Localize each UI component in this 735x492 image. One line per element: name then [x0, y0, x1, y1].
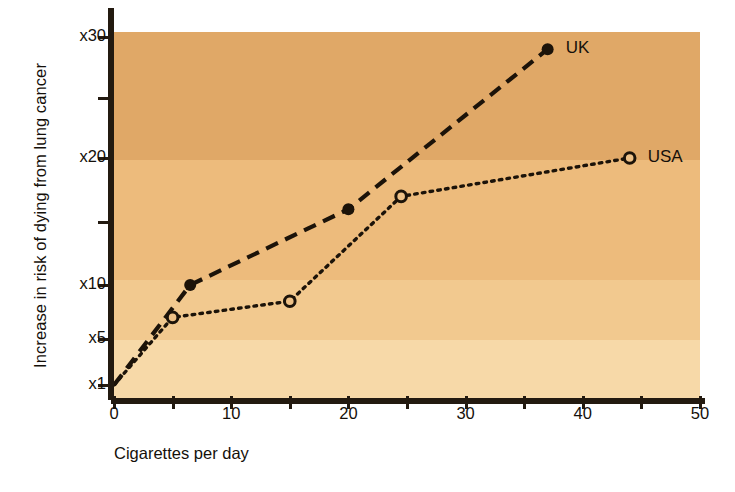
x-tick-label: 0	[84, 404, 144, 423]
data-point-uk	[184, 279, 196, 291]
data-point-usa	[167, 312, 178, 323]
data-point-uk	[542, 43, 554, 55]
x-tick-label: 50	[670, 404, 730, 423]
x-tickmark	[289, 396, 292, 409]
series-label-uk: UK	[566, 38, 590, 58]
x-tick-label: 20	[318, 404, 378, 423]
x-tickmark	[172, 396, 175, 409]
x-tickmark	[523, 396, 526, 409]
x-tickmark	[406, 396, 409, 409]
x-tick-label: 30	[436, 404, 496, 423]
data-point-usa	[624, 153, 635, 164]
data-point-uk	[342, 203, 354, 215]
x-tick-label: 10	[201, 404, 261, 423]
y-axis-line	[108, 8, 114, 400]
x-tick-label: 40	[553, 404, 613, 423]
chart-figure: x30x20x10x5x1 01020304050 UKUSA Increase…	[0, 0, 735, 492]
plot-area	[114, 32, 700, 400]
data-point-usa	[396, 191, 407, 202]
series-layer	[114, 32, 700, 400]
x-axis-title: Cigarettes per day	[114, 444, 249, 463]
data-point-usa	[285, 296, 296, 307]
series-line-uk	[114, 49, 548, 385]
y-axis-title: Increase in risk of dying from lung canc…	[31, 16, 50, 416]
series-label-usa: USA	[648, 147, 683, 167]
series-line-usa	[114, 158, 630, 385]
x-tickmark	[640, 396, 643, 409]
